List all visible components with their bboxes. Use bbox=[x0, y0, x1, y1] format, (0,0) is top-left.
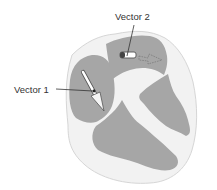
heart-diagram bbox=[0, 0, 217, 190]
vector-2-label: Vector 2 bbox=[115, 12, 150, 22]
vector-1-label: Vector 1 bbox=[14, 85, 49, 95]
